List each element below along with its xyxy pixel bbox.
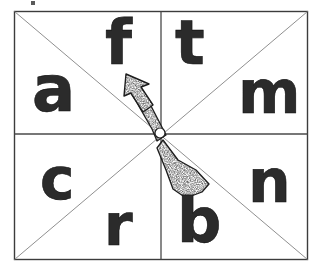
spinner-pivot [155,128,165,138]
letter-t: t [175,12,205,74]
spinner-figure: f t a m c n r b [0,0,321,272]
letter-m: m [238,63,301,123]
letter-a: a [32,58,75,122]
letter-n: n [248,152,291,212]
letter-r: r [104,196,133,254]
letter-f: f [105,12,132,74]
letter-c: c [40,150,74,208]
spinner-drawing [0,0,321,272]
letter-b: b [177,190,221,252]
